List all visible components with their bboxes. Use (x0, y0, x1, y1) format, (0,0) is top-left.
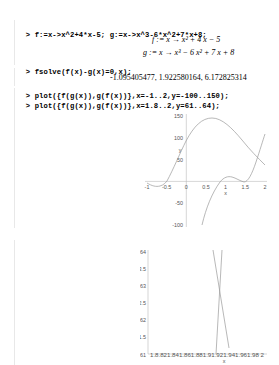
output-f-definition: f := x → x² + 4 x − 5 (152, 35, 220, 44)
x-axis-label: x (223, 358, 226, 364)
group-bracket[interactable] (14, 20, 15, 65)
svg-text:2: 2 (264, 184, 267, 190)
group-bracket[interactable] (14, 88, 15, 228)
svg-text:150: 150 (174, 113, 183, 119)
prompt: > (26, 68, 30, 76)
y-axis-label: y (179, 147, 182, 153)
plot-wide-range[interactable]: 150 100 50 -50 -100 y -1 -0.5 0 0.5 1 1.… (140, 108, 279, 233)
x-tick-labels: -1 -0.5 0 0.5 1 1.5 2 x (145, 184, 267, 196)
output-g-definition: g := x → x³ − 6 x² + 7 x + 8 (143, 48, 234, 57)
svg-text:100: 100 (174, 135, 183, 141)
svg-text:-50: -50 (175, 200, 183, 206)
x-axis-label: x (224, 190, 227, 196)
svg-text:62: 62 (140, 317, 146, 323)
svg-text:61.5: 61.5 (140, 334, 146, 340)
group-bracket[interactable] (14, 240, 15, 365)
svg-text:0.5: 0.5 (202, 184, 210, 190)
svg-text:-1: -1 (145, 184, 150, 190)
svg-text:-100: -100 (172, 222, 183, 228)
svg-text:0: 0 (185, 184, 188, 190)
curve-f-of-g (147, 118, 265, 186)
prompt: > (26, 31, 30, 39)
y-tick-labels: 150 100 50 -50 -100 y (172, 113, 183, 228)
svg-text:64: 64 (140, 249, 146, 255)
svg-text:1.5: 1.5 (242, 184, 250, 190)
svg-text:62.5: 62.5 (140, 300, 146, 306)
prompt: > (26, 102, 30, 110)
svg-text:1.8.821.841.861.881.91.921.941: 1.8.821.841.861.881.91.921.941.961.98 2 (150, 352, 264, 358)
output-fsolve-roots: -1.095405477, 1.922580164, 6.172825314 (110, 73, 247, 82)
curve-g-of-f (202, 134, 265, 225)
svg-text:63.5: 63.5 (140, 266, 146, 272)
svg-text:-0.5: -0.5 (162, 184, 171, 190)
plot-zoomed-intersection[interactable]: 64 63.5 63 62.5 62 61.5 61 1.8.821.841.8… (140, 246, 279, 365)
x-tick-labels: 1.8.821.841.861.881.91.921.941.961.98 2 … (150, 352, 264, 364)
group-bracket[interactable] (14, 68, 15, 86)
svg-text:63: 63 (140, 283, 146, 289)
svg-text:61: 61 (140, 352, 146, 358)
curve-g-of-f (216, 250, 222, 354)
y-tick-labels: 64 63.5 63 62.5 62 61.5 61 (140, 249, 146, 358)
